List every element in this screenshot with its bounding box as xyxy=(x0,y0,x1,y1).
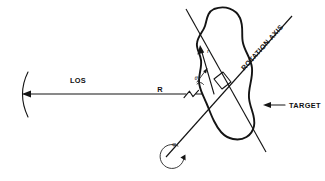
los-arrowhead-icon xyxy=(22,91,31,98)
target-arrowhead-icon xyxy=(263,102,271,108)
rotation-axis-label: ROTATION AXIS xyxy=(240,23,285,71)
target-label: TARGET xyxy=(289,101,321,110)
geometry-diagram: LOS R ROTATION AXIS TARGET r θ φ xyxy=(0,0,325,181)
diagram-root: LOS R ROTATION AXIS TARGET r θ φ xyxy=(0,0,325,181)
los-label: LOS xyxy=(70,76,86,85)
rotation-arrow-icon xyxy=(160,144,184,168)
range-label: R xyxy=(157,85,163,94)
aspect-angle-label: θ xyxy=(194,74,198,81)
radius-vector-label: r xyxy=(207,47,210,54)
rotation-rate-label: φ xyxy=(172,140,176,147)
target-outline xyxy=(197,7,255,139)
rotation-arrowhead-icon xyxy=(180,155,185,161)
